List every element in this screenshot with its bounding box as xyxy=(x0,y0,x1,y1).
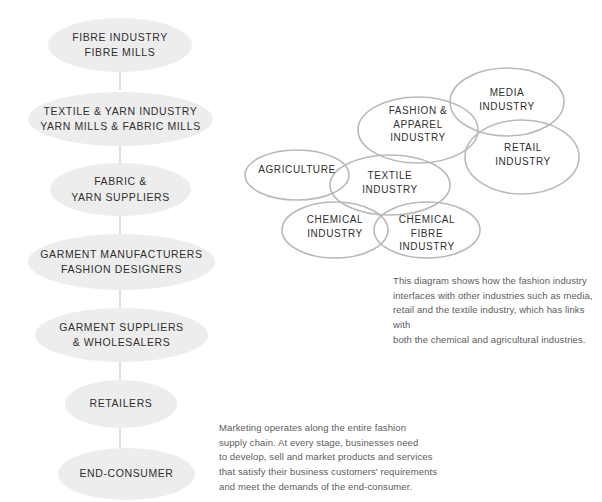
venn-label-retail: RETAIL INDUSTRY xyxy=(473,141,573,168)
flow-node-line2: FASHION DESIGNERS xyxy=(61,262,182,277)
flow-node-line1: END-CONSUMER xyxy=(79,466,173,481)
venn-label-line2: INDUSTRY xyxy=(473,155,573,169)
flow-caption-line: supply chain. At every stage, businesses… xyxy=(219,436,469,451)
flow-caption-line: and meet the demands of the end-consumer… xyxy=(219,480,469,495)
flow-node-line1: GARMENT SUPPLIERS xyxy=(59,320,183,335)
venn-caption-line: both the chemical and agricultural indus… xyxy=(393,333,598,348)
venn-label-fashion-apparel: FASHION & APPAREL INDUSTRY xyxy=(368,104,468,145)
venn-caption-line: interfaces with other industries such as… xyxy=(393,289,598,304)
venn-label-agriculture: AGRICULTURE xyxy=(247,163,347,177)
flow-node-textile-yarn-industry[interactable]: TEXTILE & YARN INDUSTRY YARN MILLS & FAB… xyxy=(28,92,213,146)
venn-label-line2: INDUSTRY xyxy=(285,227,385,241)
venn-label-line1: AGRICULTURE xyxy=(247,163,347,177)
flow-node-fabric-yarn-suppliers[interactable]: FABRIC & YARN SUPPLIERS xyxy=(50,163,191,216)
venn-label-chemical: CHEMICAL INDUSTRY xyxy=(285,213,385,240)
venn-label-line1: FASHION & xyxy=(368,104,468,118)
flow-node-line2: YARN MILLS & FABRIC MILLS xyxy=(40,119,201,134)
flow-node-line1: GARMENT MANUFACTURERS xyxy=(40,247,202,262)
venn-label-line2: FIBRE xyxy=(377,227,477,241)
flow-node-garment-suppliers[interactable]: GARMENT SUPPLIERS & WHOLESALERS xyxy=(35,308,208,362)
flow-node-line1: FABRIC & xyxy=(94,174,147,189)
flow-node-line1: RETAILERS xyxy=(90,396,153,411)
flow-node-line2: & WHOLESALERS xyxy=(73,335,171,350)
flow-caption-line: that satisfy their business customers' r… xyxy=(219,465,469,480)
flow-caption-line: to develop, sell and market products and… xyxy=(219,450,469,465)
flow-node-line2: FIBRE MILLS xyxy=(85,45,156,60)
venn-label-chemical-fibre: CHEMICAL FIBRE INDUSTRY xyxy=(377,213,477,254)
flow-caption: Marketing operates along the entire fash… xyxy=(219,421,469,495)
flow-node-retailers[interactable]: RETAILERS xyxy=(65,380,177,428)
flow-node-end-consumer[interactable]: END-CONSUMER xyxy=(58,448,195,500)
flow-node-line2: YARN SUPPLIERS xyxy=(71,190,170,205)
venn-label-line1: CHEMICAL xyxy=(377,213,477,227)
venn-label-line1: CHEMICAL xyxy=(285,213,385,227)
venn-label-line2: INDUSTRY xyxy=(340,183,440,197)
venn-label-line1: RETAIL xyxy=(473,141,573,155)
venn-label-textile: TEXTILE INDUSTRY xyxy=(340,169,440,196)
venn-caption: This diagram shows how the fashion indus… xyxy=(393,274,598,348)
venn-label-line2: APPAREL xyxy=(368,118,468,132)
venn-label-line3: INDUSTRY xyxy=(368,131,468,145)
flow-node-fibre-industry[interactable]: FIBRE INDUSTRY FIBRE MILLS xyxy=(48,18,192,72)
venn-label-line2: INDUSTRY xyxy=(457,100,557,114)
venn-label-media: MEDIA INDUSTRY xyxy=(457,86,557,113)
venn-label-line1: MEDIA xyxy=(457,86,557,100)
venn-caption-line: This diagram shows how the fashion indus… xyxy=(393,274,598,289)
venn-caption-line: retail and the textile industry, which h… xyxy=(393,303,598,332)
flow-node-line1: TEXTILE & YARN INDUSTRY xyxy=(44,104,198,119)
flow-caption-line: Marketing operates along the entire fash… xyxy=(219,421,469,436)
venn-label-line3: INDUSTRY xyxy=(377,240,477,254)
flow-node-line1: FIBRE INDUSTRY xyxy=(72,30,168,45)
venn-label-line1: TEXTILE xyxy=(340,169,440,183)
flow-node-garment-manufacturers[interactable]: GARMENT MANUFACTURERS FASHION DESIGNERS xyxy=(28,234,215,290)
